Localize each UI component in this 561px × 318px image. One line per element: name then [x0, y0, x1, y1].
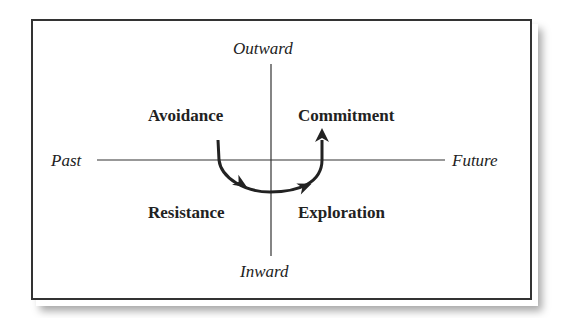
axis-label-outward: Outward: [233, 40, 293, 57]
axis-label-inward: Inward: [240, 263, 289, 280]
flow-arrowhead-commitment: [315, 128, 329, 142]
quadrant-label-resistance: Resistance: [148, 204, 224, 221]
quadrant-label-commitment: Commitment: [298, 107, 394, 124]
axis-label-future: Future: [452, 152, 498, 169]
quadrant-label-exploration: Exploration: [298, 204, 385, 221]
quadrant-label-avoidance: Avoidance: [148, 107, 223, 124]
axis-label-past: Past: [51, 152, 81, 169]
